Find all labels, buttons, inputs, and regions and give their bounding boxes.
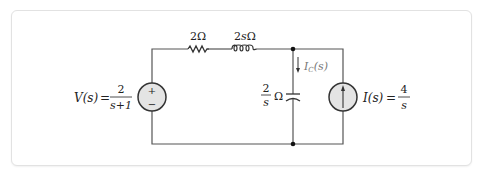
svg-text:=: = bbox=[100, 91, 110, 105]
inductor-symbol bbox=[232, 45, 257, 51]
svg-text:I(s): I(s) bbox=[362, 91, 384, 105]
svg-text:=: = bbox=[386, 91, 396, 105]
minus-sign: − bbox=[148, 99, 156, 110]
resistor-symbol bbox=[188, 46, 209, 52]
svg-text:V(s): V(s) bbox=[74, 91, 99, 105]
svg-text:4: 4 bbox=[401, 83, 408, 96]
inductor-label: 2sΩ bbox=[234, 30, 256, 43]
svg-text:2: 2 bbox=[263, 82, 270, 95]
resistor-label: 2Ω bbox=[190, 30, 206, 43]
voltage-source: + − bbox=[138, 83, 166, 111]
svg-text:2: 2 bbox=[118, 83, 125, 96]
svg-text:s+1: s+1 bbox=[110, 99, 132, 112]
svg-text:s: s bbox=[401, 99, 407, 112]
node-top bbox=[291, 47, 296, 52]
node-bottom bbox=[291, 142, 296, 147]
current-source-label: I(s) = 4 s bbox=[362, 83, 410, 112]
svg-text:s: s bbox=[263, 96, 269, 109]
circuit-diagram: 2Ω 2sΩ IC(s) 2 s Ω + − V(s) = 2 s+1 bbox=[0, 0, 484, 175]
capacitor-current-arrow bbox=[296, 57, 300, 73]
current-source bbox=[329, 83, 357, 111]
plus-sign: + bbox=[148, 85, 156, 96]
capacitor-label: 2 s Ω bbox=[261, 82, 283, 109]
voltage-source-label: V(s) = 2 s+1 bbox=[74, 83, 132, 112]
capacitor-current-label: IC(s) bbox=[303, 60, 328, 74]
svg-text:Ω: Ω bbox=[274, 90, 283, 103]
